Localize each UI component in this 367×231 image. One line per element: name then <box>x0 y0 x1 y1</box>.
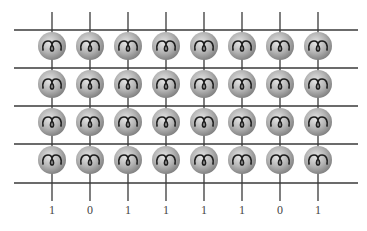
coil-sphere <box>266 32 294 60</box>
coil-sphere <box>190 70 218 98</box>
bit-label: 0 <box>80 203 100 218</box>
coil-sphere <box>114 108 142 136</box>
coil-sphere <box>304 146 332 174</box>
coil-sphere <box>152 70 180 98</box>
coil-sphere <box>228 70 256 98</box>
bit-label: 1 <box>156 203 176 218</box>
coil-sphere <box>152 146 180 174</box>
coil-sphere <box>304 108 332 136</box>
coil-sphere <box>190 108 218 136</box>
coil-sphere <box>266 146 294 174</box>
coil-sphere <box>114 70 142 98</box>
coil-sphere <box>228 146 256 174</box>
coil-sphere <box>228 32 256 60</box>
coil-sphere <box>76 70 104 98</box>
spheres <box>38 32 332 174</box>
coil-sphere <box>228 108 256 136</box>
bit-label: 1 <box>194 203 214 218</box>
coil-sphere <box>266 70 294 98</box>
coil-sphere <box>114 146 142 174</box>
bit-label: 0 <box>270 203 290 218</box>
coil-sphere <box>38 108 66 136</box>
coil-sphere <box>38 70 66 98</box>
coil-sphere <box>152 108 180 136</box>
coil-sphere <box>38 146 66 174</box>
coil-sphere <box>38 32 66 60</box>
coil-sphere <box>304 32 332 60</box>
coil-sphere <box>190 146 218 174</box>
sphere-grid-diagram <box>0 0 367 231</box>
coil-sphere <box>266 108 294 136</box>
bit-label: 1 <box>232 203 252 218</box>
coil-sphere <box>114 32 142 60</box>
coil-sphere <box>304 70 332 98</box>
coil-sphere <box>190 32 218 60</box>
coil-sphere <box>76 146 104 174</box>
bit-label: 1 <box>118 203 138 218</box>
coil-sphere <box>152 32 180 60</box>
bit-label: 1 <box>42 203 62 218</box>
bit-label: 1 <box>308 203 328 218</box>
coil-sphere <box>76 32 104 60</box>
coil-sphere <box>76 108 104 136</box>
